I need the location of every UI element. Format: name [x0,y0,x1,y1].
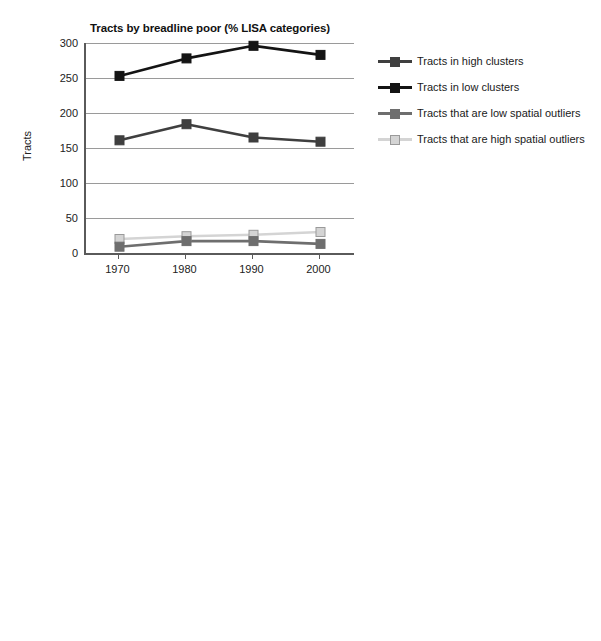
legend-item: Tracts that are high spatial outliers [378,126,585,152]
data-point-marker [249,133,258,142]
legend-swatch-icon [378,80,412,94]
legend-item: Tracts in high clusters [378,48,585,74]
legend-swatch-icon [378,132,412,146]
x-tick-mark [118,254,119,259]
y-axis-ticks-breadline: 050100150200250300 [32,43,78,255]
legend-item-label: Tracts in low clusters [417,81,519,93]
series-line [120,232,321,239]
series-line [120,46,321,76]
y-tick-label: 150 [60,142,78,154]
legend-breadline: Tracts in high clustersTracts in low clu… [378,48,585,152]
x-tick-label: 1980 [155,263,215,275]
data-point-marker [316,50,325,59]
y-tick-label: 100 [60,177,78,189]
x-tick-label: 1990 [222,263,282,275]
data-point-marker [182,232,191,241]
legend-swatch-icon [378,106,412,120]
gridline [86,183,354,184]
data-point-marker [115,136,124,145]
x-tick-mark [319,254,320,259]
data-point-marker [249,230,258,239]
gridline [86,218,354,219]
data-point-marker [115,71,124,80]
legend-item: Tracts in low clusters [378,74,585,100]
gridline [86,43,354,44]
x-tick-label: 2000 [289,263,349,275]
chart-breadline-poor: Tracts by breadline poor (% LISA categor… [0,0,601,300]
legend-item: Tracts that are low spatial outliers [378,100,585,126]
chart-core-poor: Tracts by core poor (% LISA categories) … [0,360,601,641]
data-point-marker [249,237,258,246]
legend-item-label: Tracts in high clusters [417,55,524,67]
y-tick-label: 200 [60,107,78,119]
legend-item-label: Tracts that are low spatial outliers [417,107,580,119]
data-point-marker [316,239,325,248]
x-tick-mark [185,254,186,259]
y-tick-label: 50 [66,212,78,224]
series-line [120,241,321,247]
data-point-marker [316,137,325,146]
data-point-marker [182,120,191,129]
series-line [120,124,321,142]
data-point-marker [115,235,124,244]
data-point-marker [182,54,191,63]
y-tick-label: 0 [72,247,78,259]
legend-item-label: Tracts that are high spatial outliers [417,133,585,145]
data-point-marker [316,228,325,237]
y-tick-label: 250 [60,72,78,84]
gridline [86,78,354,79]
y-tick-label: 300 [60,37,78,49]
data-point-marker [182,237,191,246]
plot-area-breadline [84,43,354,255]
chart-title-breadline: Tracts by breadline poor (% LISA categor… [60,22,360,34]
data-point-marker [115,242,124,251]
gridline [86,148,354,149]
x-tick-mark [252,254,253,259]
gridline [86,113,354,114]
x-tick-label: 1970 [88,263,148,275]
legend-swatch-icon [378,54,412,68]
